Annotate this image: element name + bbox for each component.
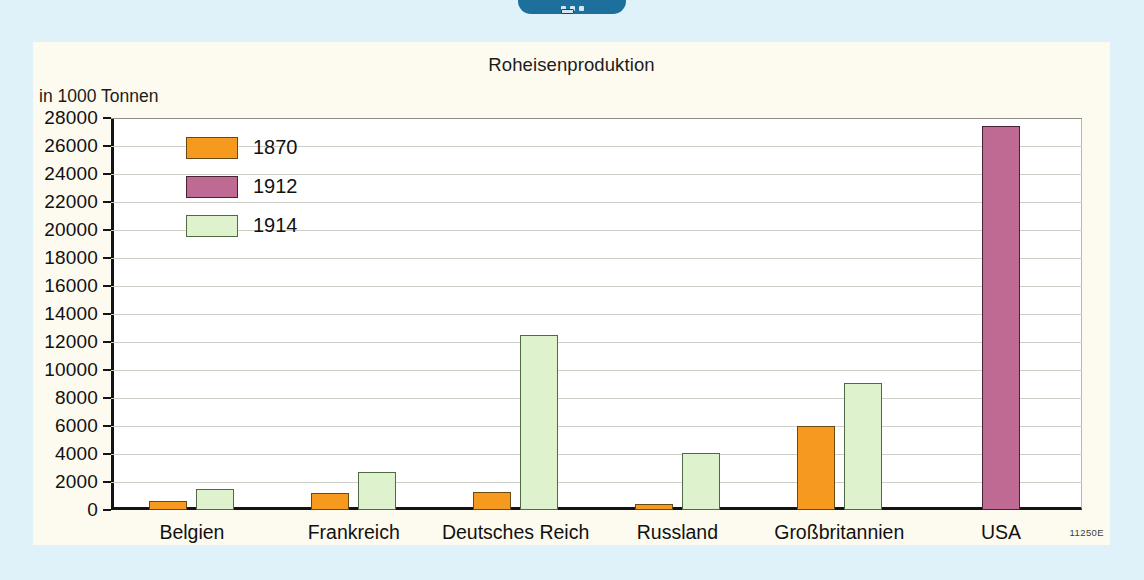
- bar-1870: [797, 426, 835, 510]
- legend-swatch-icon: [186, 215, 238, 237]
- y-axis-tick: [103, 453, 111, 455]
- y-axis-tick: [103, 173, 111, 175]
- gridline: [111, 314, 1082, 315]
- y-axis-tick: [103, 117, 111, 119]
- y-axis-tick-label: 16000: [44, 275, 98, 297]
- legend: 187019121914: [186, 136, 298, 237]
- y-axis-tick: [103, 509, 111, 511]
- bar-1870: [311, 493, 349, 510]
- y-axis-tick-label: 22000: [44, 191, 98, 213]
- y-axis-tick-label: 28000: [44, 107, 98, 129]
- bar-1914: [682, 453, 720, 510]
- top-badge[interactable]: [518, 0, 626, 14]
- x-axis-label: Belgien: [159, 521, 224, 544]
- gridline: [111, 454, 1082, 455]
- gridline: [111, 286, 1082, 287]
- y-axis-tick-label: 12000: [44, 331, 98, 353]
- gridline: [111, 342, 1082, 343]
- gridline: [111, 258, 1082, 259]
- y-axis-tick-label: 14000: [44, 303, 98, 325]
- y-axis-tick-label: 4000: [55, 443, 98, 465]
- x-axis-label: Deutsches Reich: [442, 521, 589, 544]
- legend-swatch-icon: [186, 176, 238, 198]
- menu-dots-badge-icon: [561, 6, 584, 11]
- y-axis-tick-label: 2000: [55, 471, 98, 493]
- legend-label: 1870: [253, 136, 298, 159]
- page-title: Roheisenproduktion: [33, 54, 1110, 76]
- y-axis-tick: [103, 481, 111, 483]
- source-code: 11250E: [1070, 527, 1104, 538]
- y-axis-tick: [103, 229, 111, 231]
- y-axis-tick: [103, 285, 111, 287]
- y-axis-tick-label: 6000: [55, 415, 98, 437]
- y-axis-tick-label: 20000: [44, 219, 98, 241]
- legend-item-1870[interactable]: 1870: [186, 136, 298, 159]
- y-axis-tick-label: 24000: [44, 163, 98, 185]
- gridline: [111, 118, 1082, 119]
- x-axis-label: Frankreich: [308, 521, 400, 544]
- legend-label: 1914: [253, 214, 298, 237]
- bar-1912: [982, 126, 1020, 510]
- y-axis-tick-label: 26000: [44, 135, 98, 157]
- y-axis-tick: [103, 145, 111, 147]
- y-axis-unit-label: in 1000 Tonnen: [39, 86, 158, 107]
- legend-label: 1912: [253, 175, 298, 198]
- y-axis-tick: [103, 201, 111, 203]
- y-axis-tick-label: 10000: [44, 359, 98, 381]
- chart-card: Roheisenproduktion in 1000 Tonnen 020004…: [33, 42, 1110, 545]
- bar-1870: [635, 504, 673, 510]
- y-axis-tick: [103, 369, 111, 371]
- gridline: [111, 482, 1082, 483]
- y-axis-tick-label: 8000: [55, 387, 98, 409]
- y-axis-tick: [103, 425, 111, 427]
- bar-1914: [520, 335, 558, 510]
- legend-swatch-icon: [186, 137, 238, 159]
- x-axis-label: USA: [981, 521, 1021, 544]
- gridline: [111, 370, 1082, 371]
- legend-item-1912[interactable]: 1912: [186, 175, 298, 198]
- bar-1870: [473, 492, 511, 510]
- y-axis-tick: [103, 313, 111, 315]
- bar-1914: [196, 489, 234, 510]
- x-axis-label: Russland: [637, 521, 718, 544]
- y-axis-tick: [103, 341, 111, 343]
- bar-1870: [149, 501, 187, 510]
- y-axis-tick-label: 18000: [44, 247, 98, 269]
- y-axis-tick: [103, 397, 111, 399]
- gridline: [111, 426, 1082, 427]
- plot-wrapper: 0200040006000800010000120001400016000180…: [111, 118, 1082, 510]
- x-axis-label: Großbritannien: [774, 521, 904, 544]
- gridline: [111, 398, 1082, 399]
- bar-1914: [358, 472, 396, 510]
- y-axis-tick: [103, 257, 111, 259]
- bar-1914: [844, 383, 882, 510]
- y-axis-tick-label: 0: [87, 499, 98, 521]
- legend-item-1914[interactable]: 1914: [186, 214, 298, 237]
